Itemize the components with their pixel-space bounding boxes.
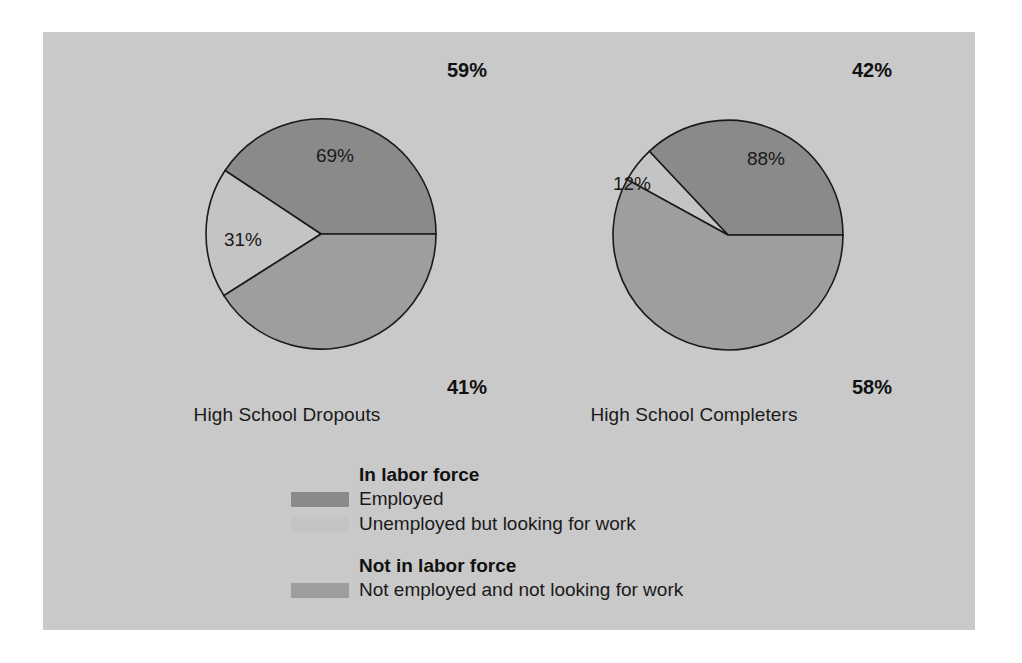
legend-item-unemployed-looking: Unemployed but looking for work bbox=[291, 512, 761, 537]
legend-label-unemployed-looking: Unemployed but looking for work bbox=[359, 513, 636, 535]
outer-label-not-in-labor-force: 41% bbox=[447, 376, 487, 398]
pie-chart-completers: 88% 12% 42% 58% High School Completers bbox=[484, 32, 904, 442]
legend-label-employed: Employed bbox=[359, 488, 444, 510]
legend-label-not-employed: Not employed and not looking for work bbox=[359, 579, 683, 601]
legend-swatch-not-employed bbox=[291, 583, 349, 598]
outer-label-in-labor-force: 59% bbox=[447, 59, 487, 81]
legend: In labor force Employed Unemployed but l… bbox=[291, 464, 761, 603]
outer-label-in-labor-force: 42% bbox=[852, 59, 892, 81]
pie-svg-completers: 88% 12% 42% 58% bbox=[484, 32, 904, 442]
pie-svg-dropouts: 69% 31% 59% 41% bbox=[77, 32, 497, 442]
pie-caption-completers: High School Completers bbox=[484, 404, 904, 426]
legend-heading-not-in-labor-force: Not in labor force bbox=[359, 555, 761, 577]
pie-chart-dropouts: 69% 31% 59% 41% High School Dropouts bbox=[77, 32, 497, 442]
legend-group-not-in-labor-force: Not in labor force Not employed and not … bbox=[291, 555, 761, 603]
inner-label-unemployed: 12% bbox=[613, 173, 651, 194]
inner-label-unemployed: 31% bbox=[224, 229, 262, 250]
legend-item-employed: Employed bbox=[291, 487, 761, 512]
outer-label-not-in-labor-force: 58% bbox=[852, 376, 892, 398]
legend-group-in-labor-force: In labor force Employed Unemployed but l… bbox=[291, 464, 761, 537]
inner-label-employed: 88% bbox=[747, 148, 785, 169]
figure-panel: 69% 31% 59% 41% High School Dropouts 88%… bbox=[43, 32, 975, 630]
legend-swatch-unemployed-looking bbox=[291, 517, 349, 532]
legend-swatch-employed bbox=[291, 492, 349, 507]
pie-caption-dropouts: High School Dropouts bbox=[77, 404, 497, 426]
inner-label-employed: 69% bbox=[316, 145, 354, 166]
legend-heading-in-labor-force: In labor force bbox=[359, 464, 761, 486]
legend-item-not-employed: Not employed and not looking for work bbox=[291, 578, 761, 603]
